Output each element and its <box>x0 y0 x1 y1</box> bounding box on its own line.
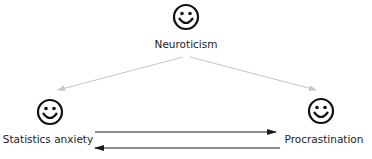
node-label-statistics-anxiety: Statistics anxiety <box>3 133 93 145</box>
smiley-face-icon <box>38 100 62 124</box>
edge-neuroticism-to-procrastination <box>190 57 316 90</box>
smiley-face-icon <box>309 99 333 123</box>
edge-neuroticism-to-statistics-anxiety <box>58 57 183 90</box>
smiley-face-icon <box>174 5 198 29</box>
node-label-neuroticism: Neuroticism <box>155 38 218 50</box>
node-label-procrastination: Procrastination <box>285 133 364 145</box>
